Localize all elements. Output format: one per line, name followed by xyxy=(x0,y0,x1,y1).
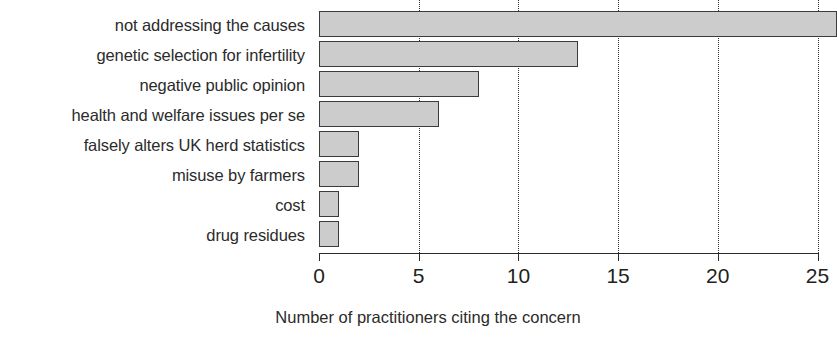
bar xyxy=(319,131,359,157)
category-label: not addressing the causes xyxy=(0,11,305,41)
bar xyxy=(319,71,479,97)
bar-series xyxy=(319,11,831,251)
x-axis-tick-label: 15 xyxy=(606,264,629,288)
bar-slot xyxy=(319,41,831,71)
bar-slot xyxy=(319,161,831,191)
x-axis-tick-label: 25 xyxy=(806,264,829,288)
x-axis-tick-label: 0 xyxy=(313,264,325,288)
x-axis-tick-label: 5 xyxy=(413,264,425,288)
x-axis-tick xyxy=(618,253,619,261)
bar xyxy=(319,101,439,127)
x-axis-tick xyxy=(718,253,719,261)
bar-slot xyxy=(319,191,831,221)
bar-slot xyxy=(319,11,831,41)
bar xyxy=(319,11,837,37)
category-label: drug residues xyxy=(0,221,305,251)
bar xyxy=(319,191,339,217)
x-axis-tick xyxy=(419,253,420,261)
x-axis-line xyxy=(319,253,818,254)
bar-slot xyxy=(319,131,831,161)
plot-area xyxy=(319,0,831,253)
bar xyxy=(319,161,359,187)
x-axis-tick-label: 10 xyxy=(507,264,530,288)
category-label: negative public opinion xyxy=(0,71,305,101)
category-axis-labels: not addressing the causes genetic select… xyxy=(0,11,305,251)
x-axis-tick xyxy=(818,253,819,261)
bar-slot xyxy=(319,71,831,101)
bar-slot xyxy=(319,221,831,251)
bar xyxy=(319,221,339,247)
x-axis-tick-label: 20 xyxy=(706,264,729,288)
bar-slot xyxy=(319,101,831,131)
x-axis-tick xyxy=(319,253,320,261)
x-axis-tick xyxy=(518,253,519,261)
x-axis-title: Number of practitioners citing the conce… xyxy=(0,308,831,327)
category-label: falsely alters UK herd statistics xyxy=(0,131,305,161)
category-label: health and welfare issues per se xyxy=(0,101,305,131)
bar xyxy=(319,41,578,67)
category-label: cost xyxy=(0,191,305,221)
category-label: misuse by farmers xyxy=(0,161,305,191)
category-label: genetic selection for infertility xyxy=(0,41,305,71)
